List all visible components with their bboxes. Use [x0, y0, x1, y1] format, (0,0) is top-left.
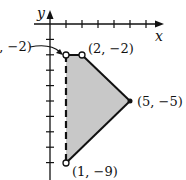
vertex-2-neg2: [79, 52, 85, 58]
label-1-neg2: (1, −2): [0, 39, 32, 54]
leader-arrow: [30, 46, 60, 52]
y-axis-label: y: [36, 5, 46, 21]
y-axis-arrow-icon: [47, 10, 54, 19]
x-axis-arrow-icon: [155, 21, 164, 28]
label-5-neg5: (5, −5): [137, 94, 183, 109]
vertex-1-neg9: [63, 160, 69, 166]
label-2-neg2: (2, −2): [88, 41, 134, 56]
vertex-1-neg2: [63, 52, 69, 58]
graph: x y (1, −2) (2, −2) (5, −5) (1, −9): [0, 0, 186, 180]
vertex-5-neg5: [128, 99, 133, 104]
x-axis-label: x: [155, 28, 163, 44]
label-1-neg9: (1, −9): [72, 164, 118, 179]
